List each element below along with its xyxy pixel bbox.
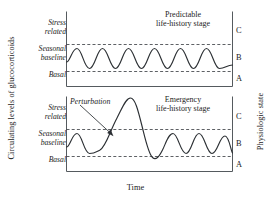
- figure-container: Circulating levels of glucocorticoids Ph…: [0, 0, 271, 202]
- plot-canvas: [0, 0, 271, 202]
- curve-emergency: [67, 98, 233, 159]
- panel-emergency: [67, 97, 233, 172]
- panel-frame-emergency: [67, 97, 233, 172]
- curve-predictable: [67, 49, 233, 69]
- panel-predictable: [67, 12, 233, 87]
